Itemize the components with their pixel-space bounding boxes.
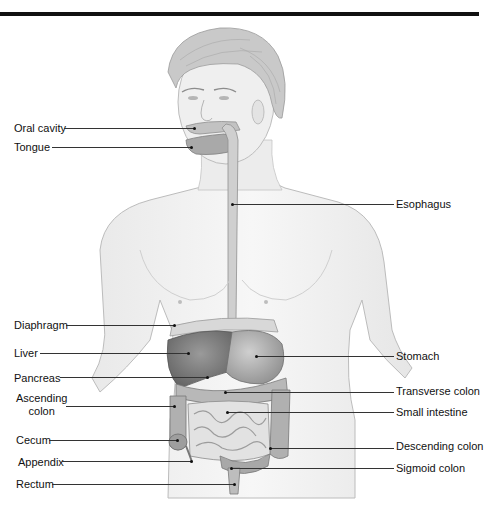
leader-dot-liver [187, 352, 190, 355]
leader-line-stomach [256, 356, 394, 357]
label-esophagus: Esophagus [396, 198, 451, 211]
rectum-shape [228, 468, 240, 494]
label-pancreas: Pancreas [14, 372, 60, 385]
leader-dot-ascending-colon [173, 405, 176, 408]
leader-line-rectum [52, 484, 234, 485]
leader-line-diaphragm [66, 325, 174, 326]
leader-dot-small-intestine [226, 411, 229, 414]
label-appendix: Appendix [18, 456, 64, 469]
leader-line-transverse-colon [225, 392, 394, 393]
label-transverse-colon: Transverse colon [396, 385, 480, 398]
label-ascending-colon: Ascendingcolon [16, 392, 67, 418]
leader-line-ascending-colon [66, 406, 174, 407]
leader-dot-sigmoid-colon [230, 467, 233, 470]
leader-dot-transverse-colon [224, 391, 227, 394]
label-cecum: Cecum [16, 434, 51, 447]
leader-line-tongue [52, 147, 191, 148]
cecum-shape [169, 434, 187, 450]
label-diaphragm: Diaphragm [14, 319, 68, 332]
leader-dot-pancreas [206, 376, 209, 379]
leader-line-descending-colon [270, 448, 394, 449]
anatomy-figure [0, 0, 491, 510]
label-stomach: Stomach [396, 350, 439, 363]
leader-line-oral-cavity [64, 128, 194, 129]
leader-dot-oral-cavity [193, 127, 196, 130]
label-small-intestine: Small intestine [396, 406, 468, 419]
leader-line-pancreas [60, 377, 207, 378]
leader-line-small-intestine [227, 412, 394, 413]
leader-dot-descending-colon [269, 447, 272, 450]
leader-dot-diaphragm [173, 324, 176, 327]
leader-dot-tongue [190, 146, 193, 149]
leader-line-liver [40, 353, 188, 354]
leader-line-sigmoid-colon [231, 468, 394, 469]
small-intestine-shape [188, 401, 270, 461]
leader-dot-appendix [190, 460, 193, 463]
label-tongue: Tongue [14, 141, 50, 154]
label-oral-cavity: Oral cavity [14, 122, 66, 135]
leader-dot-rectum [233, 483, 236, 486]
leader-dot-stomach [255, 355, 258, 358]
label-sigmoid-colon: Sigmoid colon [396, 462, 465, 475]
leader-line-appendix [62, 461, 191, 462]
leader-line-esophagus [232, 204, 394, 205]
leader-line-cecum [49, 440, 177, 441]
label-liver: Liver [14, 347, 38, 360]
leader-dot-cecum [176, 439, 179, 442]
ear [252, 100, 264, 124]
label-descending-colon: Descending colon [396, 440, 483, 453]
leader-dot-esophagus [231, 203, 234, 206]
label-rectum: Rectum [16, 478, 54, 491]
